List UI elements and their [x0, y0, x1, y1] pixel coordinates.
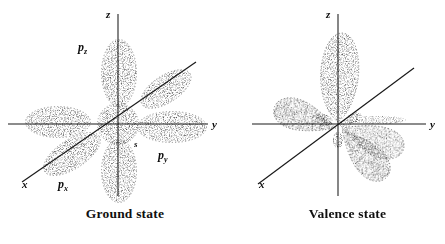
ground-state-diagram [0, 0, 250, 206]
hybrid-orbital-up [321, 33, 359, 122]
axis-label-z-ground: z [106, 8, 110, 20]
orbital-figure: z y x pz px py s Ground state [0, 0, 445, 244]
axis-label-x-ground: x [22, 178, 28, 190]
hybrid-dot-spray [350, 116, 406, 124]
axis-label-y-valence: y [430, 118, 435, 130]
axis-label-x-valence: x [259, 178, 265, 190]
orbital-label-py: py [158, 148, 168, 164]
orbital-label-s: s [134, 139, 138, 149]
caption-ground-state: Ground state [0, 206, 250, 222]
orbital-s-ground [98, 104, 138, 144]
valence-state-diagram [250, 0, 445, 206]
axis-label-z-valence: z [326, 8, 330, 20]
panel-ground-state: z y x pz px py s Ground state [0, 0, 250, 244]
caption-valence-state: Valence state [250, 206, 445, 222]
orbital-label-px: px [58, 177, 68, 193]
axis-label-y-ground: y [212, 118, 217, 130]
orbital-label-pz: pz [78, 40, 87, 56]
panel-valence-state: z y x Valence state [250, 0, 445, 244]
